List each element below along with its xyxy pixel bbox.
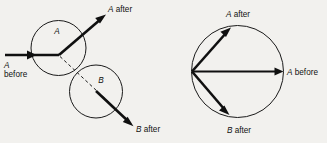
vector-b-after-left [96,91,134,126]
circle-a-label: A [53,27,60,36]
collision-vector-figure: A B A before A after B after [0,0,327,143]
figure-canvas: A B A before A after B after [0,0,327,143]
label-b-after-right: B after [227,126,251,135]
vector-b-after-right-shaft [192,72,225,111]
right-diagram: A before A after B after [192,10,319,135]
vector-a-before-left [5,51,59,60]
vector-b-after-shaft [96,91,129,122]
vector-a-before-right-arrowhead [275,67,284,75]
vector-a-before-right [192,67,284,75]
label-b-after-left: B after [136,125,160,134]
vector-a-after-right-arrowhead [220,28,231,38]
label-a-before-right: A before [286,68,318,77]
vector-a-after-shaft [59,19,102,56]
circle-b-label: B [98,76,104,85]
left-diagram: A B A before A after B after [3,5,160,134]
vector-b-after-right-arrowhead [219,105,230,115]
vector-a-after-right-shaft [192,33,227,72]
label-a-after-left: A after [107,5,132,14]
label-a-after-right: A after [225,10,250,19]
label-a-before-left-word: before [4,70,28,79]
vector-a-after-left [59,15,106,56]
label-a-before-left: A [3,61,10,70]
